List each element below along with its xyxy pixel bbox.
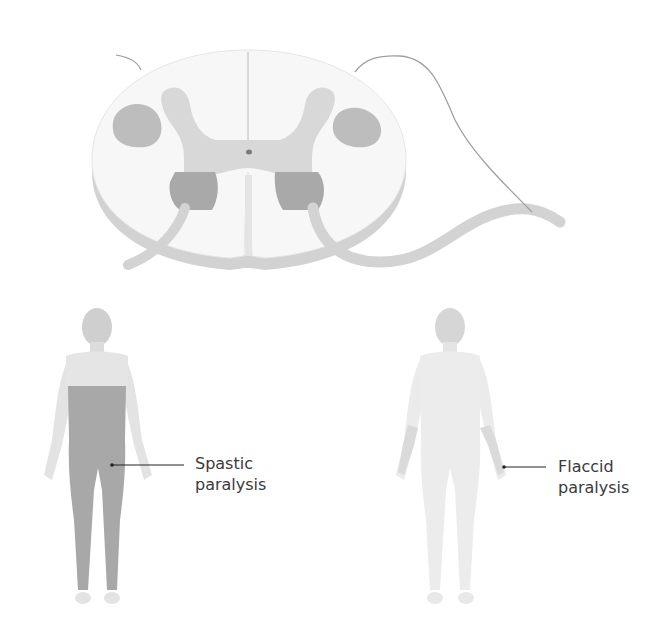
torso-and-legs bbox=[420, 352, 480, 591]
human-figure-spastic bbox=[0, 290, 330, 620]
left-foot bbox=[75, 592, 91, 604]
head bbox=[82, 308, 112, 346]
left-forearm-shading bbox=[398, 425, 418, 475]
upper-chest bbox=[66, 352, 128, 387]
central-canal bbox=[246, 150, 252, 155]
left-lateral-tract bbox=[113, 104, 162, 147]
spinal-cord-illustration bbox=[0, 0, 664, 290]
left-foot bbox=[427, 592, 443, 604]
head bbox=[435, 308, 465, 346]
anterior-median-fissure bbox=[245, 175, 252, 256]
label-line-2: paralysis bbox=[558, 477, 629, 498]
flaccid-figure: Flaccid paralysis bbox=[370, 290, 664, 620]
human-figure-flaccid bbox=[370, 290, 664, 620]
left-dorsal-root-fiber bbox=[116, 55, 141, 70]
spinal-cord-diagram bbox=[0, 0, 664, 290]
flaccid-label: Flaccid paralysis bbox=[558, 456, 629, 498]
left-anterior-horn bbox=[169, 172, 217, 210]
right-forearm-shading bbox=[480, 425, 504, 475]
right-foot bbox=[104, 592, 120, 604]
spastic-label: Spastic paralysis bbox=[195, 453, 266, 495]
right-foot bbox=[458, 592, 474, 604]
label-line-1: Spastic bbox=[195, 453, 266, 474]
spastic-region-shading bbox=[68, 386, 126, 590]
label-line-2: paralysis bbox=[195, 474, 266, 495]
label-line-1: Flaccid bbox=[558, 456, 629, 477]
spastic-figure: Spastic paralysis bbox=[0, 290, 330, 620]
